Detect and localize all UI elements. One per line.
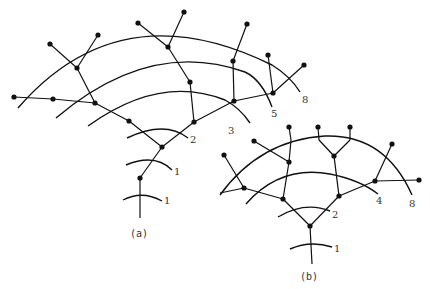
node bbox=[336, 193, 341, 198]
node bbox=[416, 177, 421, 182]
arc-a-1-lower bbox=[123, 195, 162, 201]
node bbox=[286, 159, 291, 164]
node bbox=[47, 41, 52, 46]
tree-diagram: 8 5 3 2 1 1 (a) bbox=[0, 0, 430, 289]
node bbox=[159, 144, 164, 149]
node bbox=[244, 21, 249, 26]
edges-b bbox=[220, 140, 419, 264]
figure-b: 8 4 2 1 (b) bbox=[220, 124, 422, 282]
node bbox=[11, 94, 16, 99]
arc-label-a-3: 3 bbox=[228, 125, 234, 136]
arc-label-a-5: 5 bbox=[271, 108, 277, 119]
arc-label-a-8: 8 bbox=[302, 94, 308, 105]
node bbox=[187, 79, 192, 84]
node bbox=[230, 58, 235, 63]
arc-label-b-4: 4 bbox=[376, 195, 382, 206]
arc-label-b-2: 2 bbox=[332, 209, 338, 220]
node bbox=[137, 175, 142, 180]
node bbox=[389, 141, 394, 146]
node bbox=[270, 90, 275, 95]
nodes-b bbox=[221, 124, 421, 228]
node bbox=[95, 32, 100, 37]
node bbox=[307, 223, 312, 228]
arc-label-b-8: 8 bbox=[409, 198, 415, 209]
edges-a bbox=[14, 12, 304, 218]
node bbox=[92, 100, 97, 105]
arc-a-8 bbox=[18, 36, 300, 108]
node bbox=[265, 52, 270, 57]
arc-b-2 bbox=[278, 207, 330, 217]
arc-label-a-2: 2 bbox=[190, 134, 196, 145]
node bbox=[301, 62, 306, 67]
caption-a: (a) bbox=[130, 228, 148, 239]
node bbox=[331, 153, 336, 158]
node bbox=[231, 98, 236, 103]
node bbox=[165, 44, 170, 49]
node bbox=[50, 96, 55, 101]
node bbox=[135, 20, 140, 25]
arc-label-a-1-upper: 1 bbox=[174, 166, 180, 177]
node bbox=[251, 138, 256, 143]
node bbox=[221, 152, 226, 157]
node bbox=[280, 196, 285, 201]
arc-label-b-1: 1 bbox=[334, 243, 340, 254]
arc-a-3 bbox=[88, 91, 250, 126]
node bbox=[191, 119, 196, 124]
arc-label-a-1-lower: 1 bbox=[164, 195, 170, 206]
node bbox=[241, 185, 246, 190]
node bbox=[181, 9, 186, 14]
node bbox=[372, 178, 377, 183]
caption-b: (b) bbox=[300, 271, 318, 282]
figure-a: 8 5 3 2 1 1 (a) bbox=[11, 9, 308, 239]
node bbox=[74, 65, 79, 70]
node bbox=[126, 118, 131, 123]
arc-b-8 bbox=[220, 136, 412, 195]
